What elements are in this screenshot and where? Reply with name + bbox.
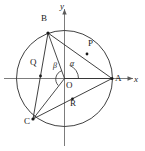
angle-label-beta: β [53, 62, 57, 70]
segment-oc [33, 79, 65, 120]
point-label-q: Q [30, 58, 37, 67]
point-label-p: P [88, 39, 93, 48]
x-axis-label: x [134, 75, 138, 84]
point-marker-b [46, 31, 49, 34]
geometry-figure: y x O A B C P Q R α β [0, 0, 145, 151]
point-marker-p [86, 53, 89, 56]
diagram-canvas [0, 0, 145, 151]
point-label-r: R [70, 99, 76, 108]
angle-label-alpha: α [70, 60, 74, 68]
segment-ob [48, 33, 65, 79]
point-label-a: A [115, 74, 122, 83]
point-marker-a [111, 77, 114, 80]
origin-label: O [66, 81, 73, 90]
segment-ba [48, 33, 112, 79]
point-marker-q [39, 75, 42, 78]
x-axis-arrowhead [128, 76, 134, 80]
point-marker-c [31, 117, 34, 120]
point-label-b: B [41, 14, 47, 23]
y-axis-label: y [60, 2, 64, 11]
point-label-c: C [24, 117, 30, 126]
